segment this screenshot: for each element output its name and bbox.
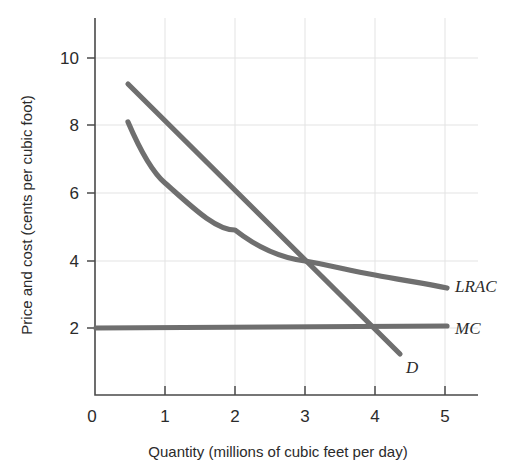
y-axis-title: Price and cost (cents per cubic foot) [18,95,35,334]
ytick-label-10: 10 [60,49,79,68]
xtick-label-0: 0 [87,407,96,426]
x-axis-title: Quantity (millions of cubic feet per day… [148,443,407,460]
chart-background [0,0,508,471]
ytick-label-2: 2 [70,319,79,338]
curve-label-d: D [405,358,419,377]
curve-label-mc: MC [454,319,481,338]
chart-figure: 10 8 6 4 2 0 1 2 3 4 5 LRAC MC D Quantit… [0,0,508,471]
xtick-label-1: 1 [160,407,169,426]
xtick-label-2: 2 [230,407,239,426]
ytick-label-4: 4 [70,252,79,271]
curve-label-lrac: LRAC [454,277,497,296]
xtick-label-3: 3 [300,407,309,426]
xtick-label-5: 5 [440,407,449,426]
xtick-label-4: 4 [370,407,379,426]
ytick-label-6: 6 [70,184,79,203]
ytick-label-8: 8 [70,116,79,135]
chart-svg: 10 8 6 4 2 0 1 2 3 4 5 LRAC MC D Quantit… [0,0,508,471]
series-line-mc [96,326,447,328]
